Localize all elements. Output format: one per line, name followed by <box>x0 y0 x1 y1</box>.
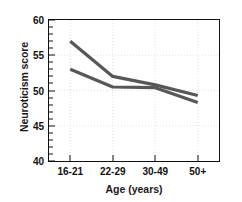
y-tick-major <box>49 90 55 91</box>
x-tick-mark <box>112 155 113 161</box>
y-tick-minor <box>49 104 53 105</box>
x-tick-mark <box>70 155 71 161</box>
x-axis-title: Age (years) <box>48 183 220 195</box>
y-tick-minor <box>49 97 53 98</box>
y-tick-label: 40 <box>33 156 44 167</box>
y-tick-major <box>49 20 55 21</box>
y-tick-minor <box>49 83 53 84</box>
y-tick-major <box>49 125 55 126</box>
y-tick-label: 60 <box>33 15 44 26</box>
y-tick-minor <box>49 153 53 154</box>
y-tick-minor <box>49 139 53 140</box>
y-tick-minor <box>49 34 53 35</box>
y-tick-major <box>49 55 55 56</box>
x-tick-label: 30-49 <box>142 166 168 177</box>
x-tick-mark <box>155 155 156 161</box>
y-tick-minor <box>49 27 53 28</box>
y-tick-minor <box>49 41 53 42</box>
plot-area: 404550556016-2122-2930-4950+ <box>48 19 220 162</box>
y-tick-minor <box>49 69 53 70</box>
y-tick-minor <box>49 132 53 133</box>
y-tick-label: 50 <box>33 85 44 96</box>
y-axis-title: Neuroticism score <box>16 2 32 172</box>
y-tick-minor <box>49 146 53 147</box>
data-lines-layer <box>49 20 219 161</box>
y-tick-minor <box>49 48 53 49</box>
x-tick-label: 22-29 <box>100 166 126 177</box>
figure-container: Neuroticism score 404550556016-2122-2930… <box>0 0 242 202</box>
data-line-series-2 <box>70 69 198 102</box>
x-tick-label: 50+ <box>189 166 206 177</box>
y-tick-major <box>49 161 55 162</box>
x-tick-mark <box>197 155 198 161</box>
y-tick-label: 45 <box>33 120 44 131</box>
y-tick-label: 55 <box>33 50 44 61</box>
y-tick-minor <box>49 111 53 112</box>
x-tick-label: 16-21 <box>57 166 83 177</box>
y-tick-minor <box>49 76 53 77</box>
y-tick-minor <box>49 62 53 63</box>
y-tick-minor <box>49 118 53 119</box>
